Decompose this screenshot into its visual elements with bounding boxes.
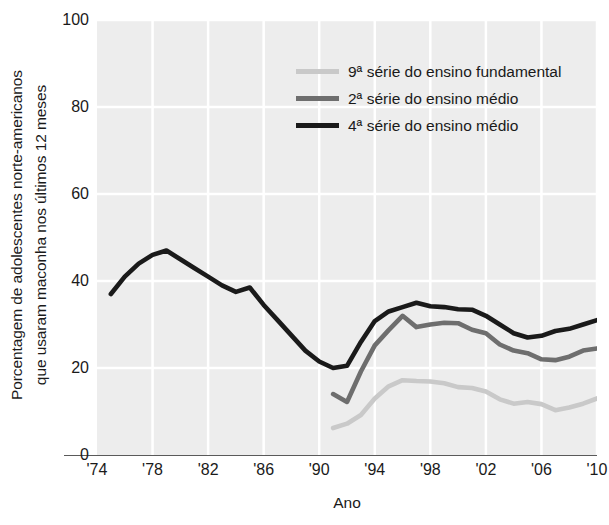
x-tick-label: '94 bbox=[352, 462, 398, 478]
x-tick-label: '10 bbox=[574, 462, 609, 478]
y-tick-label: 20 bbox=[49, 360, 89, 376]
series-line-1 bbox=[333, 380, 597, 428]
chart-figure: Porcentagem de adolescentes norte-americ… bbox=[0, 0, 609, 525]
y-axis-title-line-1: Porcentagem de adolescentes norte-americ… bbox=[8, 70, 25, 400]
y-axis-title-line-2: que usaram maconha nos últimos 12 meses bbox=[29, 70, 53, 400]
x-tick-label: '90 bbox=[296, 462, 342, 478]
legend-item: 9ª série do ensino fundamental bbox=[296, 58, 596, 85]
x-tick-label: '06 bbox=[518, 462, 564, 478]
x-tick-label: '74 bbox=[74, 462, 120, 478]
legend-item-label: 2ª série do ensino médio bbox=[348, 91, 518, 107]
x-tick-label: '02 bbox=[463, 462, 509, 478]
y-tick-label: 100 bbox=[49, 12, 89, 28]
legend-swatch-icon bbox=[296, 69, 339, 74]
y-tick-label: 80 bbox=[49, 99, 89, 115]
x-axis-title: Ano bbox=[97, 494, 597, 512]
legend-swatch-icon bbox=[296, 123, 339, 128]
y-tick-label: 40 bbox=[49, 273, 89, 289]
legend-item: 4ª série do ensino médio bbox=[296, 112, 596, 139]
x-tick-label: '86 bbox=[241, 462, 287, 478]
series-lines bbox=[111, 251, 597, 428]
x-tick-label: '78 bbox=[130, 462, 176, 478]
y-axis-title: Porcentagem de adolescentes norte-americ… bbox=[0, 0, 58, 470]
y-tick-label: 60 bbox=[49, 186, 89, 202]
x-tick-label: '98 bbox=[407, 462, 453, 478]
legend-swatch-icon bbox=[296, 96, 339, 101]
legend-item-label: 4ª série do ensino médio bbox=[348, 118, 518, 134]
x-tick-label: '82 bbox=[185, 462, 231, 478]
y-tick-label: 0 bbox=[49, 447, 89, 463]
legend-item: 2ª série do ensino médio bbox=[296, 85, 596, 112]
x-axis-rule bbox=[64, 455, 597, 456]
chart-legend: 9ª série do ensino fundamental2ª série d… bbox=[296, 58, 596, 139]
legend-item-label: 9ª série do ensino fundamental bbox=[348, 64, 561, 80]
